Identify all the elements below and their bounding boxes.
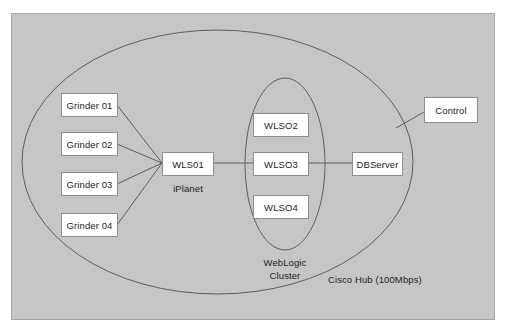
node-control[interactable]: Control: [424, 97, 478, 123]
node-grinder02[interactable]: Grinder 02: [61, 132, 118, 156]
node-grinder01-label: Grinder 01: [67, 100, 113, 111]
node-control-label: Control: [435, 105, 466, 116]
weblogic-cluster-caption-line2: Cluster: [245, 269, 325, 282]
node-wls01-sublabel: iPlanet: [162, 183, 214, 194]
weblogic-cluster-caption-line1: WebLogic: [245, 256, 325, 269]
node-wls04-label: WLSO4: [264, 202, 298, 213]
connector-grinder01-wls01: [117, 105, 162, 163]
node-wls02[interactable]: WLSO2: [253, 113, 309, 137]
diagram-canvas: Grinder 01 Grinder 02 Grinder 03 Grinder…: [0, 0, 507, 333]
node-dbserver[interactable]: DBServer: [352, 152, 403, 176]
node-grinder03-label: Grinder 03: [67, 179, 113, 190]
node-dbserver-label: DBServer: [357, 159, 399, 170]
node-wls01-label: WLS01: [172, 159, 204, 170]
connector-grinder04-wls01: [117, 163, 162, 225]
node-wls04[interactable]: WLSO4: [253, 195, 309, 219]
node-wls03[interactable]: WLSO3: [253, 152, 309, 176]
node-grinder02-label: Grinder 02: [67, 139, 113, 150]
cisco-hub-caption: Cisco Hub (100Mbps): [328, 274, 438, 285]
connector-grinder03-wls01: [117, 163, 162, 184]
node-wls01[interactable]: WLS01: [162, 152, 214, 176]
node-wls03-label: WLSO3: [264, 159, 298, 170]
node-grinder04-label: Grinder 04: [67, 220, 113, 231]
node-grinder04[interactable]: Grinder 04: [61, 213, 118, 237]
node-wls02-label: WLSO2: [264, 120, 298, 131]
node-grinder03[interactable]: Grinder 03: [61, 172, 118, 196]
node-grinder01[interactable]: Grinder 01: [61, 93, 118, 117]
